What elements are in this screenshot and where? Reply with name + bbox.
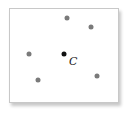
data-point [95, 74, 100, 79]
data-point [89, 25, 94, 30]
data-point [65, 16, 70, 21]
data-point [27, 52, 32, 57]
data-point [36, 78, 41, 83]
center-point [62, 52, 67, 57]
center-label: C [69, 56, 77, 67]
